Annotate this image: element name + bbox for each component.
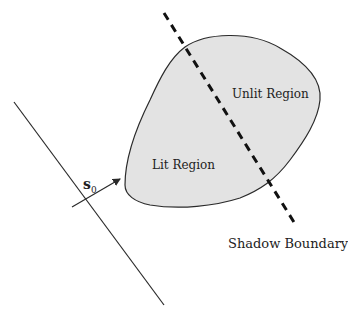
shadow-diagram: Unlit Region Lit Region Shadow Boundary …	[0, 0, 348, 314]
light-direction-label: s0	[83, 176, 97, 195]
shadow-boundary-label: Shadow Boundary	[228, 236, 348, 251]
diagram-graphics	[0, 0, 348, 314]
unlit-region-label: Unlit Region	[232, 87, 309, 101]
lit-region-label: Lit Region	[152, 158, 215, 172]
object-region	[125, 35, 320, 207]
light-direction-subscript: 0	[91, 185, 97, 195]
light-direction-symbol: s	[83, 176, 91, 192]
